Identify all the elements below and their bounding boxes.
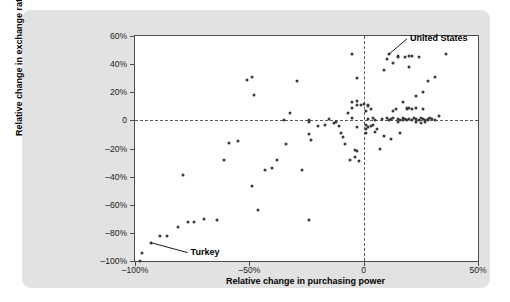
data-point: [358, 160, 361, 163]
annotation-leader-turkey: [151, 243, 188, 253]
annotation-label-turkey: Turkey: [191, 247, 220, 257]
plot-area: United StatesTurkey 60%40%20%0–20%–40%–6…: [134, 35, 479, 262]
data-point: [394, 108, 397, 111]
data-point: [246, 78, 249, 81]
data-point: [186, 220, 189, 223]
data-point: [339, 132, 342, 135]
figure-root: Relative change in exchange rate United …: [0, 0, 510, 302]
data-point: [264, 168, 267, 171]
data-point: [396, 56, 399, 59]
data-point: [364, 132, 367, 135]
data-point: [250, 185, 253, 188]
data-point: [182, 174, 185, 177]
data-point: [216, 219, 219, 222]
data-point: [364, 109, 367, 112]
data-point: [419, 122, 422, 125]
data-point: [392, 116, 395, 119]
data-point: [415, 95, 418, 98]
y-axis-tick-mark: [130, 36, 135, 37]
data-point: [307, 219, 310, 222]
y-axis-tick-label: 0: [122, 115, 127, 125]
data-point: [410, 108, 413, 111]
annotation-label-united-states: United States: [410, 33, 468, 43]
data-point: [383, 68, 386, 71]
data-point: [316, 125, 319, 128]
x-axis-tick-label: 0: [361, 265, 366, 275]
data-point: [282, 119, 285, 122]
scatter-plot-canvas: United StatesTurkey: [135, 36, 478, 261]
y-axis-tick-label: –60%: [105, 200, 127, 210]
figure-panel: Relative change in exchange rate United …: [22, 10, 490, 288]
data-point: [422, 108, 425, 111]
y-axis-tick-label: 40%: [110, 59, 127, 69]
annotation-leader-united-states: [389, 39, 407, 55]
y-axis-tick-mark: [130, 92, 135, 93]
data-point: [390, 137, 393, 140]
data-point: [417, 56, 420, 59]
data-point: [300, 168, 303, 171]
data-point: [296, 80, 299, 83]
data-point: [310, 139, 313, 142]
data-point: [323, 123, 326, 126]
data-point: [433, 119, 436, 122]
y-axis-tick-label: –40%: [105, 172, 127, 182]
x-axis-tick-label: 50%: [469, 265, 486, 275]
data-point: [257, 209, 260, 212]
data-point: [202, 217, 205, 220]
x-axis-title: Relative change in purchasing power: [134, 276, 477, 286]
data-point: [426, 80, 429, 83]
annotation-leader-lines: [135, 36, 478, 261]
data-point: [392, 61, 395, 64]
y-axis-tick-mark: [130, 233, 135, 234]
data-point: [337, 125, 340, 128]
data-point: [403, 56, 406, 59]
data-point: [150, 241, 153, 244]
data-point: [307, 120, 310, 123]
data-point: [401, 101, 404, 104]
data-point: [444, 53, 447, 56]
x-axis-tick-label: –100%: [122, 265, 148, 275]
data-point: [328, 117, 331, 120]
data-point: [271, 167, 274, 170]
data-point: [252, 94, 255, 97]
data-point: [353, 155, 356, 158]
y-axis-tick-label: –20%: [105, 144, 127, 154]
y-axis-tick-mark: [130, 177, 135, 178]
data-point: [376, 127, 379, 130]
data-point: [410, 119, 413, 122]
data-point: [355, 99, 358, 102]
data-point: [422, 91, 425, 94]
y-axis-tick-mark: [130, 205, 135, 206]
data-point: [140, 251, 143, 254]
data-point: [415, 106, 418, 109]
data-point: [307, 133, 310, 136]
data-point: [380, 117, 383, 120]
reference-line-vertical: [364, 36, 365, 261]
y-axis-tick-label: 60%: [110, 31, 127, 41]
data-point: [399, 132, 402, 135]
data-point: [362, 102, 365, 105]
data-point: [355, 77, 358, 80]
data-point: [284, 143, 287, 146]
data-point: [374, 119, 377, 122]
data-point: [410, 54, 413, 57]
data-point: [159, 234, 162, 237]
data-point: [371, 123, 374, 126]
data-point: [408, 65, 411, 68]
data-point: [193, 220, 196, 223]
data-point: [275, 158, 278, 161]
data-point: [385, 57, 388, 60]
data-point: [223, 158, 226, 161]
y-axis-tick-mark: [130, 120, 135, 121]
data-point: [355, 126, 358, 129]
data-point: [236, 140, 239, 143]
y-axis-tick-label: –80%: [105, 228, 127, 238]
data-point: [426, 119, 429, 122]
data-point: [355, 103, 358, 106]
y-axis-tick-label: 20%: [110, 87, 127, 97]
y-axis-title: Relative change in exchange rate: [14, 0, 24, 178]
data-point: [351, 116, 354, 119]
data-point: [433, 75, 436, 78]
data-point: [378, 147, 381, 150]
data-point: [348, 158, 351, 161]
